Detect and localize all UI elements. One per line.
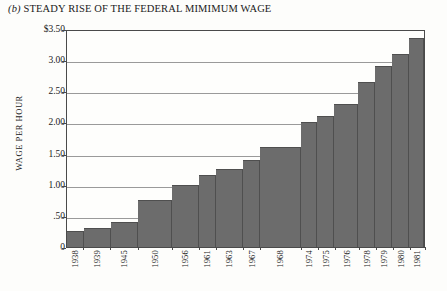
figure-title: (b) STEADY RISE OF THE FEDERAL MIMIMUM W… [8,3,271,14]
bar-series [67,31,424,247]
x-tick-label: 1976 [343,250,352,268]
x-tick-label: 1979 [380,250,389,268]
bar [392,54,409,247]
x-tick-mark [216,247,217,250]
x-tick-mark [376,247,377,250]
x-axis-ticks: 1938193919451950195619611963196719681974… [66,250,425,290]
x-tick-label: 1963 [225,250,234,268]
x-tick-label: 1938 [71,250,80,268]
x-tick-label: 1956 [181,250,190,268]
y-tick-mark [62,61,66,62]
bar [172,185,199,247]
figure-container: (b) STEADY RISE OF THE FEDERAL MIMIMUM W… [0,0,447,291]
bar [317,116,334,247]
x-tick-mark [425,247,426,250]
x-tick-label: 1980 [397,250,406,268]
bar [375,66,392,247]
x-tick-mark [110,247,111,250]
y-tick-label: 1.00 [21,181,65,191]
x-tick-mark [83,247,84,250]
y-tick-label: 3.00 [21,56,65,66]
x-tick-label: 1939 [93,250,102,268]
x-tick-label: 1974 [305,250,314,268]
bar [301,122,318,247]
x-tick-label: 1950 [151,250,160,268]
y-tick-label: 1.50 [21,150,65,160]
y-tick-label: 0 [21,243,65,253]
x-tick-mark [410,247,411,250]
bar [409,38,424,247]
bar [111,222,138,247]
x-tick-mark [359,247,360,250]
y-tick-mark [62,248,66,249]
bar [199,175,216,247]
x-tick-label: 1961 [203,250,212,268]
x-tick-mark [243,247,244,250]
x-tick-mark [301,247,302,250]
y-tick-mark [62,92,66,93]
y-tick-mark [62,30,66,31]
bar [260,147,301,247]
bar [216,169,243,247]
x-tick-mark [318,247,319,250]
x-tick-mark [393,247,394,250]
x-tick-label: 1975 [322,250,331,268]
x-tick-mark [199,247,200,250]
y-tick-label: 2.50 [21,87,65,97]
x-tick-mark [138,247,139,250]
x-tick-mark [172,247,173,250]
bar [67,231,84,247]
x-tick-label: 1967 [248,250,257,268]
bar [358,82,375,247]
x-tick-label: 1945 [120,250,129,268]
x-tick-label: 1978 [363,250,372,268]
bar [334,104,358,247]
bar [138,200,172,247]
x-tick-label: 1968 [276,250,285,268]
y-tick-label: .50 [21,212,65,222]
figure-title-text: STEADY RISE OF THE FEDERAL MIMIMUM WAGE [23,3,271,14]
x-tick-mark [260,247,261,250]
bar [243,160,260,247]
y-tick-mark [62,123,66,124]
x-tick-mark [335,247,336,250]
y-tick-label: $3.50 [21,25,65,35]
y-tick-mark [62,217,66,218]
y-tick-label: 2.00 [21,118,65,128]
y-tick-mark [62,155,66,156]
figure-label: (b) [8,3,21,14]
plot-area [66,30,425,248]
y-tick-mark [62,186,66,187]
x-tick-label: 1981 [413,250,422,268]
bar [84,228,111,247]
